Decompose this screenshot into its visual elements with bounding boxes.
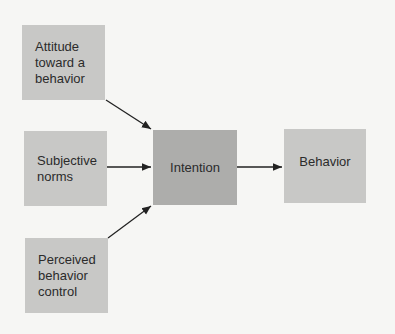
node-behavior: Behavior (284, 129, 366, 203)
node-subjective-norms-label: Subjective norms (37, 153, 97, 185)
node-attitude: Attitude toward a behavior (22, 25, 105, 100)
node-perceived-control-label: Perceived behavior control (38, 252, 96, 300)
node-intention-label: Intention (170, 160, 220, 176)
node-attitude-label: Attitude toward a behavior (35, 39, 85, 87)
node-subjective-norms: Subjective norms (24, 131, 107, 206)
node-behavior-label: Behavior (299, 154, 350, 170)
arrow-control-intention (108, 206, 151, 238)
arrow-attitude-intention (106, 100, 151, 129)
node-perceived-control: Perceived behavior control (25, 238, 108, 313)
node-intention: Intention (153, 130, 237, 205)
